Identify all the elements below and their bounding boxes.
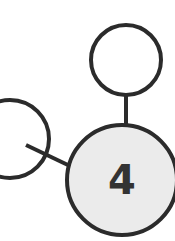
tree-diagram: 4 [0, 0, 175, 241]
node-center-label: 4 [108, 157, 136, 203]
node-top [91, 25, 161, 95]
node-left [0, 100, 49, 178]
